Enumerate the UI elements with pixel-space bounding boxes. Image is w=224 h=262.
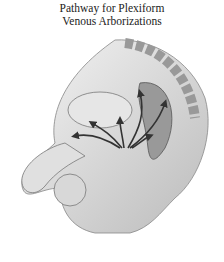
testis (54, 174, 86, 206)
title-line-1: Pathway for Plexiform (0, 2, 224, 15)
title-line-2: Venous Arborizations (0, 15, 224, 28)
figure-title: Pathway for Plexiform Venous Arborizatio… (0, 2, 224, 28)
pelvis-illustration (0, 38, 224, 260)
bladder (68, 92, 132, 128)
